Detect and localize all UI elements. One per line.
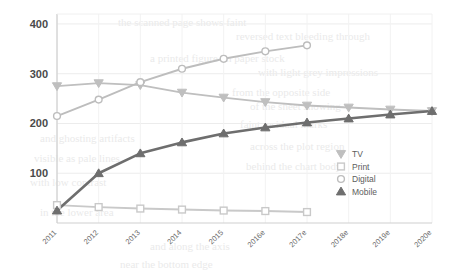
x-axis-labels: 201120122013201420152016e2017e2018e2019e… bbox=[41, 228, 434, 249]
data-point-print bbox=[137, 205, 144, 212]
data-point-print bbox=[304, 209, 311, 216]
data-point-digital bbox=[304, 42, 311, 49]
legend-marker-print bbox=[338, 163, 345, 170]
legend-label-tv: TV bbox=[352, 149, 363, 159]
legend-label-digital: Digital bbox=[352, 174, 376, 184]
data-point-digital bbox=[262, 48, 269, 55]
y-axis-tick-label: 200 bbox=[30, 117, 48, 129]
y-axis-tick-label: 100 bbox=[30, 167, 48, 179]
x-axis-tick-label: 2014 bbox=[165, 228, 183, 246]
x-axis-tick-label: 2019e bbox=[371, 228, 392, 249]
x-axis-tick-label: 2013 bbox=[124, 228, 142, 246]
y-axis-labels: 100200300400 bbox=[30, 18, 48, 179]
data-point-print bbox=[179, 206, 186, 213]
legend-marker-mobile bbox=[336, 187, 345, 195]
legend-label-print: Print bbox=[352, 162, 370, 172]
line-chart: 100200300400 201120122013201420152016e20… bbox=[0, 0, 454, 271]
legend-label-mobile: Mobile bbox=[352, 187, 377, 197]
data-point-print bbox=[95, 204, 102, 211]
y-axis-tick-label: 300 bbox=[30, 68, 48, 80]
data-point-digital bbox=[95, 96, 102, 103]
x-axis-tick-label: 2018e bbox=[329, 228, 350, 249]
data-point-digital bbox=[137, 79, 144, 86]
data-point-digital bbox=[220, 55, 227, 62]
legend-marker-tv bbox=[336, 151, 345, 159]
chart-container: the scanned page shows faintreversed tex… bbox=[0, 0, 454, 271]
x-axis-tick-label: 2017e bbox=[287, 228, 308, 249]
x-axis-tick-label: 2020e bbox=[412, 228, 433, 249]
series-markers bbox=[52, 42, 436, 216]
data-point-print bbox=[220, 207, 227, 214]
x-axis-tick-label: 2011 bbox=[41, 228, 59, 246]
series-line-tv bbox=[57, 83, 432, 111]
data-point-print bbox=[262, 208, 269, 215]
x-axis-tick-label: 2012 bbox=[82, 228, 100, 246]
data-point-digital bbox=[54, 113, 61, 120]
x-axis-tick-label: 2015 bbox=[207, 228, 225, 246]
y-axis-tick-label: 400 bbox=[30, 18, 48, 30]
data-point-digital bbox=[179, 65, 186, 72]
x-axis-tick-label: 2016e bbox=[246, 228, 267, 249]
legend-marker-digital bbox=[338, 176, 345, 183]
